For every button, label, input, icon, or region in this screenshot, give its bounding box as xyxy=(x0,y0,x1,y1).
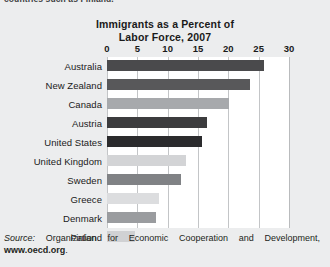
cropped-caption-text: countries such as Finland. xyxy=(4,0,114,4)
bar-row: Australia xyxy=(0,57,330,76)
category-label-australia: Australia xyxy=(0,61,102,72)
x-tick-15: 15 xyxy=(187,43,209,54)
x-tick-25: 25 xyxy=(248,43,270,54)
bar-row: New Zealand xyxy=(0,76,330,95)
bar-row: United Kingdom xyxy=(0,152,330,171)
category-label-united-states: United States xyxy=(0,137,102,148)
category-label-austria: Austria xyxy=(0,118,102,129)
category-label-canada: Canada xyxy=(0,99,102,110)
bar-rows: AustraliaNew ZealandCanadaAustriaUnited … xyxy=(0,57,330,228)
bar-greece xyxy=(107,193,159,204)
x-tick-10: 10 xyxy=(157,43,179,54)
bar-row: Austria xyxy=(0,114,330,133)
category-label-sweden: Sweden xyxy=(0,175,102,186)
bar-row: Canada xyxy=(0,95,330,114)
chart-title: Immigrants as a Percent of Labor Force, … xyxy=(0,18,330,43)
bar-canada xyxy=(107,98,229,109)
bar-sweden xyxy=(107,174,181,185)
chart-title-line-1: Immigrants as a Percent of xyxy=(0,18,330,31)
source-label: Source: xyxy=(4,233,35,243)
category-label-denmark: Denmark xyxy=(0,213,102,224)
bar-row: United States xyxy=(0,133,330,152)
x-axis-tick-labels: 051015202530 xyxy=(0,43,330,55)
source-body: Organization for Economic Cooperation an… xyxy=(35,233,320,243)
x-tick-5: 5 xyxy=(126,43,148,54)
category-label-united-kingdom: United Kingdom xyxy=(0,156,102,167)
bar-united-kingdom xyxy=(107,155,186,166)
category-label-new-zealand: New Zealand xyxy=(0,80,102,91)
bar-row: Sweden xyxy=(0,171,330,190)
bar-australia xyxy=(107,60,264,71)
x-tick-30: 30 xyxy=(278,43,300,54)
category-label-greece: Greece xyxy=(0,194,102,205)
source-url[interactable]: www.oecd.org xyxy=(4,245,65,255)
bar-united-states xyxy=(107,136,202,147)
bar-row: Denmark xyxy=(0,209,330,228)
source-note: Source: Organization for Economic Cooper… xyxy=(4,233,320,256)
chart-figure: Immigrants as a Percent of Labor Force, … xyxy=(0,9,330,267)
x-tick-0: 0 xyxy=(96,43,118,54)
bar-row: Greece xyxy=(0,190,330,209)
cropped-caption-strip: countries such as Finland. xyxy=(0,0,330,9)
source-period: . xyxy=(65,245,68,255)
bar-denmark xyxy=(107,212,156,223)
chart-title-line-2: Labor Force, 2007 xyxy=(0,31,330,44)
x-tick-20: 20 xyxy=(217,43,239,54)
bar-new-zealand xyxy=(107,79,250,90)
bar-austria xyxy=(107,117,207,128)
